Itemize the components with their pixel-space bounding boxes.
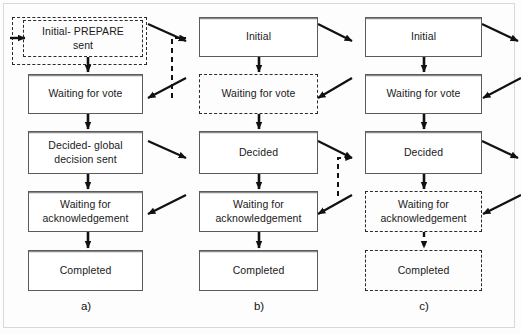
node-c4[interactable]: Waiting for acknowledgement bbox=[365, 191, 482, 232]
node-b3-line1: Decided bbox=[236, 146, 281, 159]
node-c4-line1: Waiting for bbox=[377, 198, 469, 211]
node-c2[interactable]: Waiting for vote bbox=[365, 74, 482, 114]
node-a5-line1: Completed bbox=[57, 264, 115, 277]
node-a1-line2: sent bbox=[39, 39, 127, 52]
node-a2[interactable]: Waiting for vote bbox=[28, 74, 143, 114]
node-c3-text: Decided bbox=[398, 146, 449, 159]
node-b5[interactable]: Completed bbox=[199, 250, 318, 291]
node-c2-line1: Waiting for vote bbox=[383, 87, 463, 100]
node-c2-text: Waiting for vote bbox=[380, 87, 466, 100]
node-a5-text: Completed bbox=[54, 264, 118, 277]
node-a5[interactable]: Completed bbox=[28, 250, 143, 291]
node-b3-text: Decided bbox=[233, 146, 284, 159]
node-c1-line1: Initial bbox=[408, 30, 439, 43]
node-a1-text: Initial- PREPARE sent bbox=[36, 25, 130, 51]
node-c3[interactable]: Decided bbox=[365, 131, 482, 174]
node-c1-text: Initial bbox=[405, 30, 442, 43]
node-c1[interactable]: Initial bbox=[365, 17, 482, 57]
node-b4-line1: Waiting for bbox=[212, 198, 304, 211]
node-b4-text: Waiting for acknowledgement bbox=[209, 198, 307, 224]
node-b1-text: Initial bbox=[240, 30, 277, 43]
node-c5-line1: Completed bbox=[395, 264, 453, 277]
node-a4[interactable]: Waiting for acknowledgement bbox=[28, 191, 143, 232]
node-a3[interactable]: Decided- global decision sent bbox=[28, 131, 143, 174]
node-c3-line1: Decided bbox=[401, 146, 446, 159]
column-caption-b: b) bbox=[239, 300, 279, 312]
node-b4[interactable]: Waiting for acknowledgement bbox=[199, 191, 318, 232]
column-caption-c: c) bbox=[404, 300, 444, 312]
node-b5-line1: Completed bbox=[230, 264, 288, 277]
node-b5-text: Completed bbox=[227, 264, 291, 277]
node-a3-line1: Decided- global bbox=[45, 139, 125, 152]
node-a2-text: Waiting for vote bbox=[42, 87, 128, 100]
node-a4-line2: acknowledgement bbox=[39, 212, 131, 225]
column-caption-a: a) bbox=[66, 300, 106, 312]
node-b2-line1: Waiting for vote bbox=[218, 87, 298, 100]
node-c4-text: Waiting for acknowledgement bbox=[374, 198, 472, 224]
node-a3-line2: decision sent bbox=[45, 153, 125, 166]
node-a4-text: Waiting for acknowledgement bbox=[36, 198, 134, 224]
diagram-canvas: Initial- PREPARE sent Waiting for vote D… bbox=[0, 0, 521, 334]
node-c5-text: Completed bbox=[392, 264, 456, 277]
node-c5[interactable]: Completed bbox=[365, 250, 482, 291]
node-c4-line2: acknowledgement bbox=[377, 212, 469, 225]
node-a3-text: Decided- global decision sent bbox=[42, 139, 128, 165]
node-a1-line1: Initial- PREPARE bbox=[39, 25, 127, 38]
node-a2-line1: Waiting for vote bbox=[45, 87, 125, 100]
node-b3[interactable]: Decided bbox=[199, 131, 318, 174]
node-b1-line1: Initial bbox=[243, 30, 274, 43]
node-b1[interactable]: Initial bbox=[199, 17, 318, 57]
node-b2-text: Waiting for vote bbox=[215, 87, 301, 100]
node-a1[interactable]: Initial- PREPARE sent bbox=[23, 20, 143, 57]
node-b2[interactable]: Waiting for vote bbox=[199, 74, 318, 114]
node-a4-line1: Waiting for bbox=[39, 198, 131, 211]
node-b4-line2: acknowledgement bbox=[212, 212, 304, 225]
